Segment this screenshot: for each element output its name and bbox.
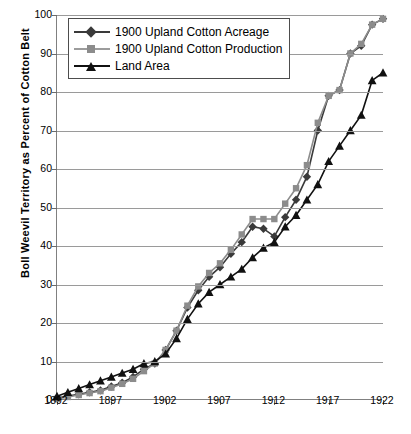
square-marker bbox=[184, 302, 190, 308]
chart-container: Boll Weevil Territory as Percent of Cott… bbox=[0, 0, 411, 434]
y-tick-label: 80 bbox=[18, 85, 52, 97]
square-marker bbox=[358, 41, 364, 47]
legend-item[interactable]: Land Area bbox=[74, 57, 282, 74]
square-marker bbox=[217, 260, 223, 266]
gridline bbox=[57, 92, 383, 93]
x-tick-label: 1917 bbox=[306, 394, 350, 406]
y-tick-label: 40 bbox=[18, 239, 52, 251]
x-tick-label: 1902 bbox=[143, 394, 187, 406]
y-tick bbox=[52, 92, 57, 93]
triangle-marker bbox=[129, 365, 138, 373]
triangle-marker bbox=[313, 180, 322, 188]
square-marker bbox=[293, 185, 299, 191]
diamond-marker bbox=[303, 173, 311, 181]
x-tick-label: 1897 bbox=[88, 394, 132, 406]
legend-item[interactable]: 1900 Upland Cotton Production bbox=[74, 40, 282, 57]
square-marker bbox=[380, 16, 386, 22]
legend-item-label: 1900 Upland Cotton Production bbox=[115, 42, 282, 56]
gridline bbox=[57, 15, 383, 16]
y-tick-label: 90 bbox=[18, 47, 52, 59]
gridline bbox=[57, 362, 383, 363]
y-tick bbox=[52, 169, 57, 170]
square-marker bbox=[130, 376, 136, 382]
square-marker bbox=[206, 270, 212, 276]
square-marker bbox=[369, 21, 375, 27]
gridline bbox=[57, 169, 383, 170]
y-tick-label: 70 bbox=[18, 124, 52, 136]
y-tick-label: 10 bbox=[18, 355, 52, 367]
square-marker bbox=[325, 93, 331, 99]
y-tick bbox=[52, 362, 57, 363]
series-line bbox=[57, 73, 383, 396]
y-tick bbox=[52, 246, 57, 247]
y-tick-label: 50 bbox=[18, 201, 52, 213]
y-tick bbox=[52, 131, 57, 132]
square-marker bbox=[119, 381, 125, 387]
y-tick bbox=[52, 54, 57, 55]
triangle-marker-icon bbox=[74, 60, 110, 72]
y-tick bbox=[52, 323, 57, 324]
square-marker bbox=[141, 368, 147, 374]
gridline bbox=[57, 323, 383, 324]
legend-item[interactable]: 1900 Upland Cotton Acreage bbox=[74, 23, 282, 40]
square-marker bbox=[282, 200, 288, 206]
y-tick bbox=[52, 208, 57, 209]
diamond-marker bbox=[292, 196, 300, 204]
x-tick-label: 1912 bbox=[251, 394, 295, 406]
triangle-marker bbox=[259, 244, 268, 252]
gridline bbox=[57, 246, 383, 247]
gridline bbox=[57, 131, 383, 132]
square-marker bbox=[228, 247, 234, 253]
legend-item-label: 1900 Upland Cotton Acreage bbox=[115, 25, 269, 39]
x-tick-label: 1892 bbox=[34, 394, 78, 406]
gridline bbox=[57, 285, 383, 286]
gridline bbox=[57, 208, 383, 209]
triangle-marker bbox=[226, 272, 235, 280]
y-tick-label: 60 bbox=[18, 162, 52, 174]
square-marker bbox=[304, 162, 310, 168]
square-marker-icon bbox=[74, 43, 110, 55]
y-tick bbox=[52, 285, 57, 286]
chart-legend: 1900 Upland Cotton Acreage 1900 Upland C… bbox=[68, 18, 290, 79]
triangle-marker bbox=[205, 288, 214, 296]
triangle-marker bbox=[368, 76, 377, 84]
y-tick-label: 30 bbox=[18, 278, 52, 290]
diamond-marker-icon bbox=[74, 26, 110, 38]
y-tick-label: 20 bbox=[18, 316, 52, 328]
square-marker bbox=[260, 216, 266, 222]
diamond-marker bbox=[281, 213, 289, 221]
square-marker bbox=[239, 231, 245, 237]
square-marker bbox=[271, 216, 277, 222]
square-marker bbox=[108, 384, 114, 390]
square-marker bbox=[315, 120, 321, 126]
x-tick-label: 1922 bbox=[360, 394, 404, 406]
square-marker bbox=[249, 216, 255, 222]
x-tick-label: 1907 bbox=[197, 394, 241, 406]
y-tick bbox=[52, 15, 57, 16]
y-tick-label: 100 bbox=[18, 8, 52, 20]
triangle-marker bbox=[379, 68, 388, 76]
legend-item-label: Land Area bbox=[115, 59, 170, 73]
triangle-marker bbox=[357, 111, 366, 119]
